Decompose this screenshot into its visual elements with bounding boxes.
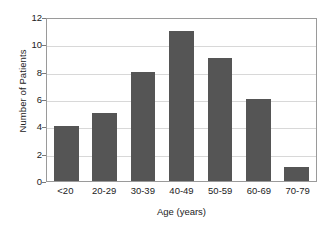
bar-slot [124, 19, 162, 181]
bar-60-69 [246, 99, 271, 181]
x-axis-tick-label: 50-59 [201, 184, 240, 198]
x-axis-tick-labels: <2020-2930-3940-4950-5960-6970-79 [46, 184, 317, 198]
bar-slot [162, 19, 200, 181]
x-axis-tick-label: <20 [46, 184, 85, 198]
bar-slot [85, 19, 123, 181]
x-axis-title: Age (years) [46, 206, 317, 217]
bar-40-49 [169, 31, 194, 181]
bar-slot [239, 19, 277, 181]
x-axis-tick-label: 60-69 [240, 184, 279, 198]
x-axis-tick-label: 70-79 [278, 184, 317, 198]
bar-70-79 [284, 167, 309, 181]
x-axis-tick-label: 30-39 [123, 184, 162, 198]
y-axis-tick-mark [42, 182, 46, 183]
y-axis-title: Number of Patients [14, 0, 30, 182]
plot-area [46, 18, 317, 182]
x-axis-tick-label: 20-29 [85, 184, 124, 198]
bar-slot [201, 19, 239, 181]
bar-30-39 [131, 72, 156, 181]
bar-chart-figure: Number of Patients 024681012 <2020-2930-… [0, 0, 336, 232]
bar-series [47, 19, 316, 181]
x-axis-tick-label: 40-49 [162, 184, 201, 198]
bar-slot [47, 19, 85, 181]
bar-20-29 [92, 113, 117, 181]
bar-50-59 [208, 58, 233, 181]
bar-slot [278, 19, 316, 181]
bar-<20 [54, 126, 79, 181]
